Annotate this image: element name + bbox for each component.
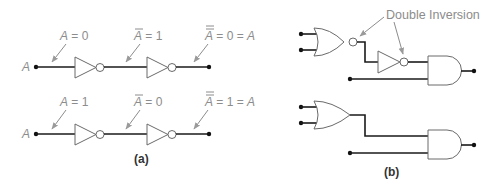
arrow-icon [126, 110, 140, 129]
caption-b: (b) [384, 165, 399, 179]
double-inversion-annotation: Double Inversion [386, 8, 480, 22]
equivalent-circuit [299, 101, 476, 159]
nor-gate [314, 28, 344, 56]
svg-text:A = 0: A = 0 [133, 95, 163, 109]
state-label-a-double-bar: A = 1 = A [204, 92, 255, 109]
inverter-gate [147, 57, 168, 78]
panel-a: A A = 0 A = 1 A = 0 = A [21, 26, 255, 166]
inversion-bubble [400, 58, 408, 66]
input-label: A [21, 60, 30, 74]
output-terminal [207, 132, 211, 136]
state-label-a: A = 0 [59, 29, 89, 43]
output-terminal [472, 143, 476, 147]
arrow-icon [394, 22, 403, 54]
svg-text:A = 0: A = 0 [59, 29, 89, 43]
circuit-with-double-inversion: Double Inversion [299, 8, 480, 85]
or-gate [314, 101, 350, 129]
inversion-bubble [349, 38, 357, 46]
arrow-icon [126, 44, 140, 62]
inverter-gate [378, 51, 400, 73]
state-label-a: A = 1 [59, 95, 89, 109]
wire [357, 42, 378, 62]
arrow-icon [194, 110, 208, 129]
state-label-a-bar: A = 0 [133, 95, 163, 109]
svg-text:A = 1: A = 1 [59, 95, 89, 109]
inverter-chain-row-2: A A = 1 A = 0 A = 1 = A [21, 92, 255, 145]
inverter-gate [75, 124, 96, 145]
caption-a: (a) [134, 152, 149, 166]
svg-text:A = 1: A = 1 [133, 29, 163, 43]
inversion-bubble [96, 64, 104, 72]
inverter-gate [147, 124, 168, 145]
inverter-gate [75, 57, 96, 78]
inversion-bubble [168, 64, 176, 72]
and-gate [428, 56, 462, 85]
svg-text:A = 0 = A: A = 0 = A [204, 29, 255, 43]
inverter-chain-row-1: A A = 0 A = 1 A = 0 = A [21, 26, 255, 78]
arrow-icon [360, 17, 384, 36]
output-terminal [207, 65, 211, 69]
inversion-bubble [96, 131, 104, 139]
input-label: A [21, 127, 30, 141]
svg-text:A = 1 = A: A = 1 = A [204, 95, 255, 109]
output-terminal [472, 69, 476, 73]
and-gate [428, 130, 462, 159]
inversion-bubble [168, 131, 176, 139]
state-label-a-double-bar: A = 0 = A [204, 26, 255, 43]
arrow-icon [194, 44, 208, 62]
double-inversion-diagram: A A = 0 A = 1 A = 0 = A [0, 0, 492, 181]
panel-b: Double Inversion (b) [299, 8, 480, 179]
arrow-icon [52, 110, 66, 129]
wire [350, 115, 428, 136]
state-label-a-bar: A = 1 [133, 29, 163, 43]
arrow-icon [52, 44, 66, 62]
